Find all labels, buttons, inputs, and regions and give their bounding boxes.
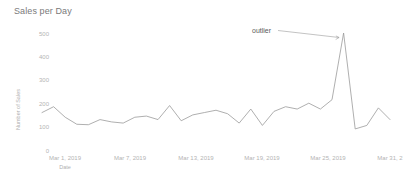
annotation-label-outlier: outlier — [252, 27, 272, 34]
annotation-arrow-icon — [278, 31, 339, 40]
x-tick-label-3: Mar 13, 2019 — [178, 155, 214, 161]
chart-container: Sales per Day 500 400 300 200 100 0 Numb… — [0, 0, 410, 177]
x-tick-label-5: Mar 25, 2019 — [310, 155, 346, 161]
x-tick-label-6: Mar 31, 2 — [377, 155, 403, 161]
y-tick-label-500: 500 — [39, 31, 50, 37]
y-tick-label-0: 0 — [46, 148, 50, 154]
x-tick-label-4: Mar 19, 2019 — [244, 155, 280, 161]
chart-plot-area: 500 400 300 200 100 0 Number of Sales Ma… — [0, 0, 410, 177]
y-tick-label-400: 400 — [39, 54, 50, 60]
y-tick-label-200: 200 — [39, 101, 50, 107]
x-axis-title: Date — [59, 164, 71, 170]
x-tick-label-1: Mar 1, 2019 — [49, 155, 82, 161]
data-series-line — [42, 33, 390, 129]
y-tick-label-100: 100 — [39, 124, 50, 130]
y-tick-label-300: 300 — [39, 77, 50, 83]
y-axis-title: Number of Sales — [15, 89, 21, 130]
x-tick-label-2: Mar 7, 2019 — [114, 155, 147, 161]
